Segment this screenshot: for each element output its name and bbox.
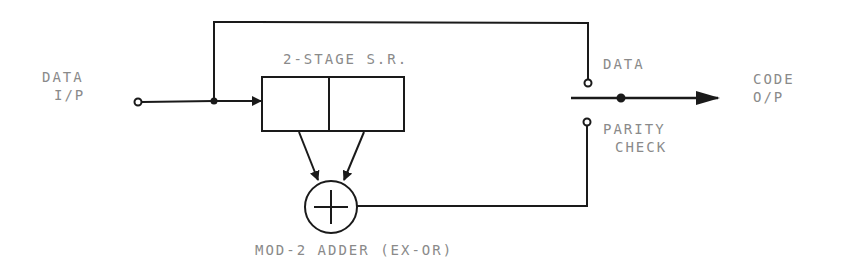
encoder-diagram — [0, 0, 847, 279]
parity-check-label: PARITY CHECK — [603, 120, 667, 156]
input-line — [142, 101, 214, 102]
parity-check-label-line1: PARITY — [603, 120, 667, 138]
code-output-label: CODE O/P — [753, 70, 795, 106]
output-switch-pivot — [618, 95, 625, 102]
input-terminal — [135, 99, 142, 106]
data-contact-label: DATA — [603, 55, 645, 73]
data-contact — [585, 80, 592, 87]
code-output-label-line1: CODE — [753, 70, 795, 88]
data-input-label-line2: I/P — [42, 86, 85, 104]
parity-line — [357, 126, 587, 206]
mod2-adder-label: MOD-2 ADDER (EX-OR) — [255, 241, 453, 259]
shift-register — [262, 77, 404, 131]
data-input-label: DATA I/P — [42, 68, 85, 104]
shift-register-label: 2-STAGE S.R. — [283, 50, 408, 68]
code-output-label-line2: O/P — [753, 88, 795, 106]
parity-check-label-line2: CHECK — [603, 138, 667, 156]
tap-stage-1 — [299, 132, 318, 180]
data-input-label-line1: DATA — [42, 68, 85, 86]
tap-stage-2 — [344, 132, 364, 180]
parity-contact — [584, 119, 591, 126]
